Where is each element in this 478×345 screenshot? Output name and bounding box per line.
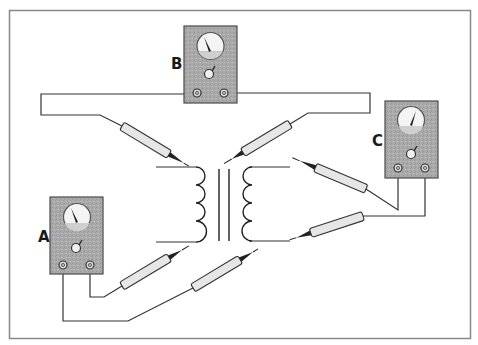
secondary-coil [242, 167, 252, 241]
probe-b-left[interactable] [120, 122, 191, 170]
transformer [196, 167, 252, 242]
probe-a-left[interactable] [191, 245, 261, 292]
wire-b-right [224, 93, 370, 124]
meter-b-label: B [171, 55, 182, 73]
terminal-right[interactable] [220, 89, 228, 97]
meter-a-label: A [38, 228, 50, 246]
meter-a[interactable] [50, 197, 103, 274]
wire-b-left [41, 94, 197, 126]
primary-coil [196, 167, 207, 242]
meter-c-label: C [372, 132, 383, 150]
probe-c-top[interactable] [291, 154, 368, 194]
wire-a-right [90, 271, 122, 297]
meter-c[interactable] [385, 101, 438, 178]
terminal-left[interactable] [394, 164, 402, 172]
meter-b[interactable] [184, 26, 237, 103]
probe-b-right[interactable] [222, 120, 293, 167]
terminal-left[interactable] [193, 89, 201, 97]
probe-c-bottom[interactable] [288, 212, 364, 244]
transformer-meter-diagram: B A C [0, 0, 478, 345]
terminal-left[interactable] [59, 261, 67, 269]
probe-a-right[interactable] [120, 242, 191, 290]
terminal-right[interactable] [421, 164, 429, 172]
terminal-right[interactable] [86, 261, 94, 269]
